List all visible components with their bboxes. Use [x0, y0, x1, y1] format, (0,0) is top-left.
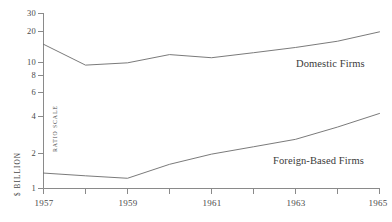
ratio-scale-note: RATIO SCALE: [52, 105, 58, 152]
y-tick-label-6: 6: [14, 88, 36, 97]
y-tick-label-10: 10: [14, 58, 36, 67]
y-tick-label-4: 4: [14, 112, 36, 121]
chart-plot-area: [0, 0, 392, 222]
y-axis-ticks: [38, 14, 44, 189]
x-tick-label-1965: 1965: [358, 199, 392, 208]
series-label-domestic: Domestic Firms: [296, 58, 365, 69]
y-tick-label-8: 8: [14, 71, 36, 80]
x-tick-label-1963: 1963: [276, 199, 316, 208]
y-tick-label-30: 30: [14, 9, 36, 18]
x-axis-ticks: [44, 189, 380, 195]
y-axis-title: $ BILLION: [14, 152, 22, 196]
x-tick-label-1961: 1961: [192, 199, 232, 208]
x-tick-label-1957: 1957: [24, 199, 64, 208]
series-label-foreign: Foreign-Based Firms: [273, 155, 364, 166]
chart-container: 30 20 10 8 6 4 2 1 1957 1959 1961 1963 1…: [0, 0, 392, 222]
y-tick-label-20: 20: [14, 27, 36, 36]
series-line-foreign: [44, 113, 380, 178]
x-tick-label-1959: 1959: [108, 199, 148, 208]
